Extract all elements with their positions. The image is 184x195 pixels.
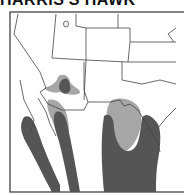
range-map <box>0 10 184 195</box>
map-title: HARRIS'S HAWK <box>0 0 184 5</box>
